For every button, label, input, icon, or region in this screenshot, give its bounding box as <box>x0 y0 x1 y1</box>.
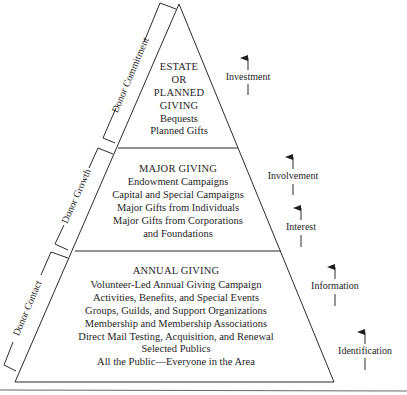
stage-investment: Investment <box>226 58 271 95</box>
bracket-label: Donor Commitment <box>109 35 151 114</box>
bracket-donor-growth: Donor Growth <box>55 148 113 250</box>
tier-item: Bequests <box>160 113 198 124</box>
tier-title-line: MAJOR GIVING <box>139 163 217 174</box>
tier-item: Planned Gifts <box>150 125 207 136</box>
stage-label: Interest <box>286 221 316 232</box>
stage-interest: Interest <box>286 208 316 247</box>
stage-label: Involvement <box>268 170 319 181</box>
tier-item: and Foundations <box>143 228 213 239</box>
tier-title-line: ANNUAL GIVING <box>133 265 220 276</box>
donor-pyramid-diagram: ESTATE OR PLANNED GIVING Bequests Planne… <box>0 0 407 395</box>
tier-item: Activities, Benefits, and Special Events <box>93 292 259 303</box>
bracket-line <box>55 225 68 250</box>
bracket-line <box>4 342 16 371</box>
tier-estate-planned-giving: ESTATE OR PLANNED GIVING Bequests Planne… <box>150 61 207 136</box>
bracket-line <box>41 252 68 275</box>
tier-item: Groups, Guilds, and Support Organization… <box>85 305 267 316</box>
tier-item: Capital and Special Campaigns <box>112 189 244 200</box>
tier-item: Endowment Campaigns <box>128 176 229 187</box>
bracket-label: Donor Growth <box>59 167 93 225</box>
bottom-rule <box>0 390 407 391</box>
tier-major-giving: MAJOR GIVING Endowment Campaigns Capital… <box>112 163 244 239</box>
tier-item: Membership and Membership Associations <box>85 318 267 329</box>
bracket-line <box>103 108 116 143</box>
stage-identification: Identification <box>338 332 392 370</box>
tier-item: All the Public—Everyone in the Area <box>97 356 255 367</box>
tier-title-line: OR <box>172 74 187 85</box>
tier-item: Major Gifts from Corporations <box>113 215 243 226</box>
tier-title-line: PLANNED <box>154 87 205 98</box>
stage-label: Identification <box>338 345 392 356</box>
stage-information: Information <box>311 267 359 306</box>
tier-item: Volunteer-Led Annual Giving Campaign <box>91 279 263 290</box>
tier-item: Selected Publics <box>141 343 210 354</box>
bracket-donor-contact: Donor Contact <box>4 252 68 371</box>
tier-item: Major Gifts from Individuals <box>117 202 239 213</box>
tier-annual-giving: ANNUAL GIVING Volunteer-Led Annual Givin… <box>78 265 273 367</box>
tier-item: Direct Mail Testing, Acquisition, and Re… <box>78 331 273 342</box>
stage-label: Information <box>311 280 359 291</box>
tier-title-line: GIVING <box>160 100 199 111</box>
tier-title-line: ESTATE <box>160 61 198 72</box>
stage-label: Investment <box>226 71 271 82</box>
stage-involvement: Involvement <box>268 157 319 195</box>
